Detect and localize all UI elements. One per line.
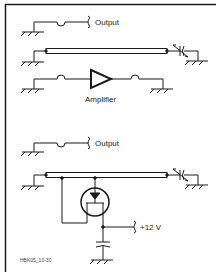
schematic-diagram: Output Amplifier Output +12 V HBK05_10-3… [0,0,216,272]
variable-capacitor-icon [167,170,198,185]
ground-icon [21,89,44,93]
bypass-capacitor-icon [96,227,110,260]
ground-icon [90,260,113,264]
variable-capacitor-icon [167,46,198,61]
output-label-bottom: Output [95,139,120,148]
supply-brace-icon [134,221,136,233]
output-brace-icon [88,137,90,149]
output-pickup-line-top [21,16,90,36]
ground-icon [21,62,44,66]
ground-icon [21,32,44,36]
amplifier-label: Amplifier [85,95,116,104]
ground-icon [185,61,208,65]
fet-preamp [61,177,136,264]
amplifier-icon [91,70,111,88]
transmission-line-bottom [21,169,208,190]
supply-voltage-label: +12 V [140,223,162,232]
output-pickup-line-bottom [21,137,90,156]
ground-icon [185,185,208,189]
amplifier-chain [21,70,173,93]
ground-icon [150,89,173,93]
transmission-line-top [21,45,208,66]
output-brace-icon [88,16,90,28]
figure-id: HBK05_10-30 [20,257,52,263]
output-label-top: Output [95,18,120,27]
ground-icon [21,152,44,156]
ground-icon [21,186,44,190]
